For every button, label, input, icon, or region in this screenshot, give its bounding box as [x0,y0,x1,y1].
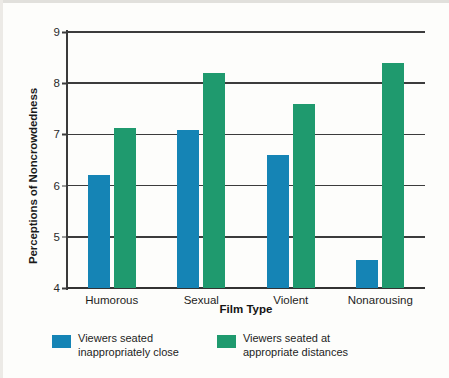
bar-sexual-appropriate [203,73,225,288]
chart-legend: Viewers seated inappropriately closeView… [52,332,348,359]
y-axis-title: Perceptions of Noncrowdedness [27,61,39,291]
legend-label: Viewers seated inappropriately close [78,332,179,359]
x-axis-title: Film Type [67,303,425,315]
legend-item-1: Viewers seated inappropriately close [52,332,179,359]
y-axis-tick-mark [62,134,67,136]
y-axis-tick-label: 4 [54,282,60,294]
legend-swatch-green [217,335,236,348]
y-axis-tick-label: 9 [54,26,60,38]
y-axis-tick-mark [62,236,67,238]
figure-left-border [0,0,3,378]
bar-violent-appropriate [293,104,315,288]
y-axis-tick-label: 7 [54,128,60,140]
bar-nonarousing-close [356,260,378,288]
y-axis-tick-mark [62,185,67,187]
y-axis-tick-mark [62,32,67,34]
bar-humorous-appropriate [114,128,136,288]
bar-humorous-close [88,175,110,288]
bar-nonarousing-appropriate [382,63,404,288]
figure-top-border [0,0,449,3]
gridline [67,82,425,84]
bar-violent-close [267,155,289,288]
gridline [67,31,425,33]
bar-chart-figure: Perceptions of Noncrowdedness 456789 Hum… [0,0,449,378]
y-axis-tick-label: 8 [54,77,60,89]
y-axis-tick-mark [62,83,67,85]
plot-area: 456789 HumorousSexualViolentNonarousing [67,32,425,288]
bar-sexual-close [177,130,199,288]
legend-swatch-blue [52,335,71,348]
y-axis-tick-mark [62,288,67,290]
y-axis-line [66,30,68,290]
legend-item-2: Viewers seated at appropriate distances [217,332,348,359]
legend-label: Viewers seated at appropriate distances [243,332,348,359]
y-axis-tick-label: 5 [54,231,60,243]
y-axis-tick-label: 6 [54,180,60,192]
